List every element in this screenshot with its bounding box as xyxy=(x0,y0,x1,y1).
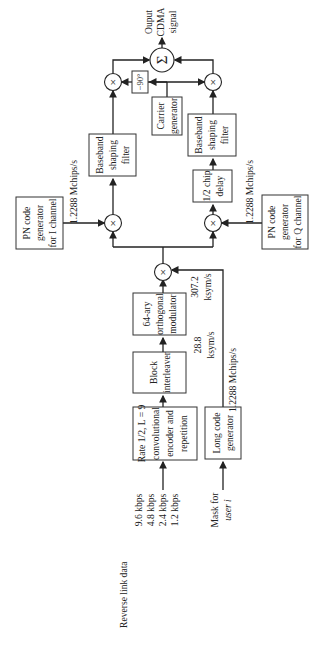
pn-q-label-3: for Q channel xyxy=(292,195,303,248)
pn-q-label-2: generator xyxy=(279,203,290,240)
rate-2-4: 2.4 kbps xyxy=(157,493,168,526)
carrier-label-2: generator xyxy=(168,97,179,134)
rate-4-8: 4.8 kbps xyxy=(145,493,156,526)
encoder-block: Rate 1/2, L = 9 convolutional encoder an… xyxy=(133,405,197,463)
pn-i-rate-label: 1.2288 Mchips/s xyxy=(68,160,79,224)
encoder-label-2: convolutional xyxy=(150,407,161,460)
bb-q-label-1: Baseband xyxy=(193,116,204,154)
pn-q-rate-label: 1.2288 Mchips/s xyxy=(244,160,255,224)
longcode-label-2: generator xyxy=(224,414,235,451)
sum-icon: Σ xyxy=(154,56,170,65)
baseband-filter-i-block: Baseband shaping filter xyxy=(89,134,136,176)
multiply-icon: × xyxy=(110,219,117,228)
wire-q-sum xyxy=(175,60,213,73)
carrier-generator-block: Carrier generator xyxy=(152,97,182,135)
cdma-transmitter-diagram: Rate 1/2, L = 9 convolutional encoder an… xyxy=(0,0,323,664)
pn-i-generator-block: PN code generator for I channel xyxy=(16,197,63,249)
multiplier-carrier-q: × xyxy=(205,74,222,91)
bb-q-label-2: shaping xyxy=(206,120,217,150)
chip-delay-block: 1/2 chip delay xyxy=(193,170,232,202)
multiplier-user-mask: × xyxy=(155,264,172,281)
mask-label: Mask for user i xyxy=(209,492,233,528)
longcode-label-1: Long code xyxy=(211,413,222,454)
phase-shift-block: −90° xyxy=(132,71,148,93)
pn-q-label-1: PN code xyxy=(266,206,277,239)
modulator-label-1: 64-ary xyxy=(141,301,152,326)
encoder-label-1: Rate 1/2, L = 9 xyxy=(136,405,147,463)
encoder-label-3: encoder and xyxy=(164,410,175,457)
output-label-2: CDMA xyxy=(155,8,166,37)
long-code-generator-block: Long code generator xyxy=(205,407,241,459)
orthogonal-modulator-block: 64-ary orthogonal modulator xyxy=(133,293,186,335)
data-rates: 9.6 kbps 4.8 kbps 2.4 kbps 1.2 kbps xyxy=(133,493,180,526)
mask-label-1: Mask for xyxy=(209,492,220,528)
bb-i-label-3: filter xyxy=(120,145,131,164)
baseband-filter-q-block: Baseband shaping filter xyxy=(188,114,236,156)
rate-1-2: 1.2 kbps xyxy=(169,493,180,526)
long-code-rate-label: 1.2288 Mchips/s xyxy=(227,348,238,412)
pn-i-label-3: for I channel xyxy=(47,198,58,247)
interleaver-label-2: interleaver xyxy=(161,351,172,393)
rate-pn-i: 1.2288 Mchips/s xyxy=(68,160,79,224)
interleaver-label-1: Block xyxy=(148,361,159,384)
rate-307-2-unit: ksym/s xyxy=(202,273,213,300)
multiply-icon: × xyxy=(160,268,167,277)
modulator-label-3: modulator xyxy=(167,293,178,333)
pn-q-generator-block: PN code generator for Q channel xyxy=(262,195,308,249)
rate-307-2: 307.2 xyxy=(189,276,200,298)
multiplier-pn-q: × xyxy=(205,215,222,232)
modulator-label-2: orthogonal xyxy=(154,293,165,335)
multiplier-carrier-i: × xyxy=(105,74,122,91)
modulator-rate-label: 307.2 ksym/s xyxy=(189,273,213,300)
rate-9-6: 9.6 kbps xyxy=(133,493,144,526)
carrier-label-1: Carrier xyxy=(155,102,166,130)
pn-i-label-2: generator xyxy=(34,204,45,241)
bb-i-label-2: shaping xyxy=(107,140,118,170)
mask-label-2: user i xyxy=(222,499,233,521)
summer: Σ xyxy=(150,48,174,72)
rate-long-code: 1.2288 Mchips/s xyxy=(227,348,238,412)
rate-28-8-unit: ksym/s xyxy=(205,331,216,358)
rate-pn-q: 1.2288 Mchips/s xyxy=(244,160,255,224)
output-label-1: Ouput xyxy=(143,10,154,34)
pn-i-label-1: PN code xyxy=(21,207,32,240)
output-label: Ouput CDMA signal xyxy=(143,8,178,37)
multiplier-pn-i: × xyxy=(105,215,122,232)
output-label-3: signal xyxy=(167,10,178,33)
bb-i-label-1: Baseband xyxy=(94,136,105,174)
block-interleaver-block: Block interleaver xyxy=(133,351,186,393)
multiply-icon: × xyxy=(210,219,217,228)
interleaver-rate-label: 28.8 ksym/s xyxy=(192,331,216,358)
multiply-icon: × xyxy=(110,78,117,87)
bb-q-label-3: filter xyxy=(219,125,230,144)
rate-28-8: 28.8 xyxy=(192,336,203,353)
reverse-link-text: Reverse link data xyxy=(118,561,129,628)
multiply-icon: × xyxy=(210,78,217,87)
delay-label-1: 1/2 chip xyxy=(201,170,212,201)
encoder-label-4: repetition xyxy=(178,415,189,452)
reverse-link-label: Reverse link data xyxy=(118,561,129,628)
delay-label-2: delay xyxy=(214,175,225,196)
phase-label: −90° xyxy=(135,74,145,91)
